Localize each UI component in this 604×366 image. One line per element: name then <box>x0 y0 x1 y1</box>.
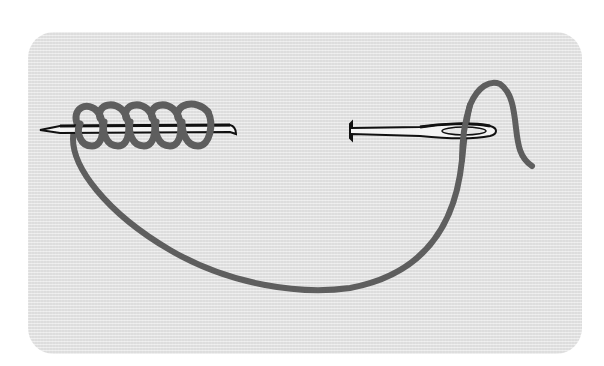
right-needle <box>350 122 496 140</box>
stitch-illustration <box>0 0 604 366</box>
